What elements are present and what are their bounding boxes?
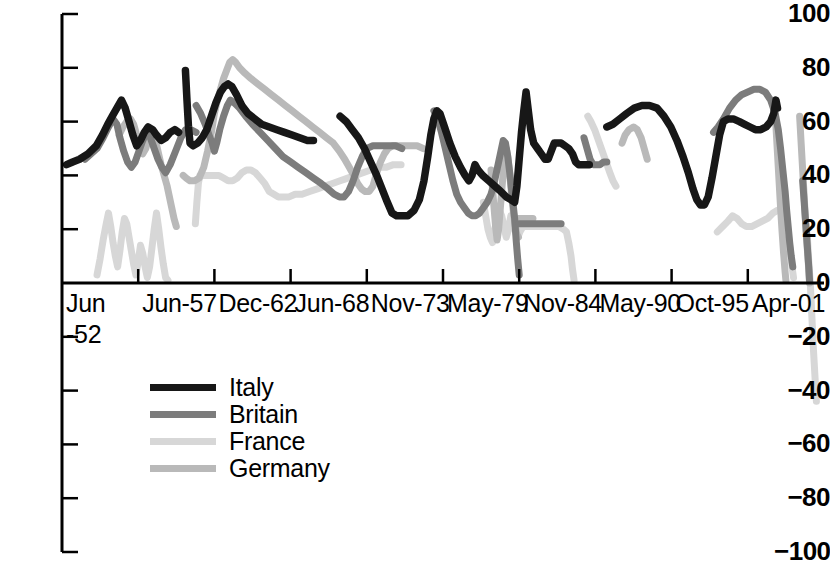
x-axis-tick-label: Nov-84 <box>523 290 602 316</box>
x-axis-tick-label: Oct-95 <box>676 290 749 316</box>
x-axis-tick-label: Apr-01 <box>752 290 825 316</box>
chart-container: 100806040200−20−40−60−80−100 Jun-52Jun-5… <box>0 0 830 563</box>
x-axis-tick-label: Jun-68 <box>295 290 370 316</box>
y-axis-tick-label: 80 <box>774 54 830 80</box>
x-axis-tick-label: May-90 <box>599 290 681 316</box>
x-axis-tick-label-line1: Jun-68 <box>295 289 370 317</box>
series-lines <box>67 60 817 402</box>
x-axis-tick-label: May-79 <box>447 290 529 316</box>
y-axis-tick-label: −60 <box>774 430 830 456</box>
legend-label: France <box>229 429 305 454</box>
x-axis-tick-label-line1: May-79 <box>447 289 529 317</box>
x-axis-tick-label: Jun-52 <box>66 290 105 348</box>
y-axis-tick-label: 100 <box>774 0 830 26</box>
x-axis-tick-label-line1: Oct-95 <box>676 289 749 317</box>
legend-item-britain[interactable]: Britain <box>150 401 330 428</box>
x-axis-tick-label-line1: Dec-62 <box>218 289 297 317</box>
y-axis-tick-label: −20 <box>774 323 830 349</box>
legend-swatch-icon <box>150 465 216 472</box>
chart-legend: ItalyBritainFranceGermany <box>150 374 330 482</box>
legend-label: Britain <box>229 402 298 427</box>
legend-swatch-icon <box>150 438 216 445</box>
y-axis-tick-label: −80 <box>774 484 830 510</box>
y-axis-tick-label: 60 <box>774 108 830 134</box>
x-axis-tick-label: Dec-62 <box>218 290 297 316</box>
x-axis-tick-label-line1: Jun-57 <box>142 289 217 317</box>
series-line-italy <box>607 100 778 205</box>
legend-item-germany[interactable]: Germany <box>150 455 330 482</box>
legend-item-france[interactable]: France <box>150 428 330 455</box>
chart-plot-area <box>0 0 830 563</box>
y-axis-tick-label: 40 <box>774 161 830 187</box>
series-line-italy <box>340 92 589 216</box>
x-axis-tick-label-line1: Apr-01 <box>752 289 825 317</box>
x-axis-tick-label-line1: May-90 <box>599 289 681 317</box>
y-axis-tick-label: −100 <box>774 538 830 563</box>
x-axis-tick-label: Nov-73 <box>371 290 450 316</box>
x-axis-tick-label-line1: Nov-84 <box>523 289 602 317</box>
legend-swatch-icon <box>150 384 216 391</box>
legend-item-italy[interactable]: Italy <box>150 374 330 401</box>
legend-label: Italy <box>229 375 273 400</box>
y-axis-tick-label: −40 <box>774 377 830 403</box>
x-axis-tick-label-line1: Nov-73 <box>371 289 450 317</box>
series-line-germany <box>622 127 647 159</box>
x-axis-tick-label: Jun-57 <box>142 290 217 316</box>
y-axis-tick-label: 20 <box>774 215 830 241</box>
x-axis-tick-label-line2: -52 <box>66 321 105 347</box>
legend-label: Germany <box>229 456 330 481</box>
series-line-france <box>97 213 168 280</box>
x-axis-tick-label-line1: Jun <box>66 289 105 317</box>
legend-swatch-icon <box>150 411 216 418</box>
